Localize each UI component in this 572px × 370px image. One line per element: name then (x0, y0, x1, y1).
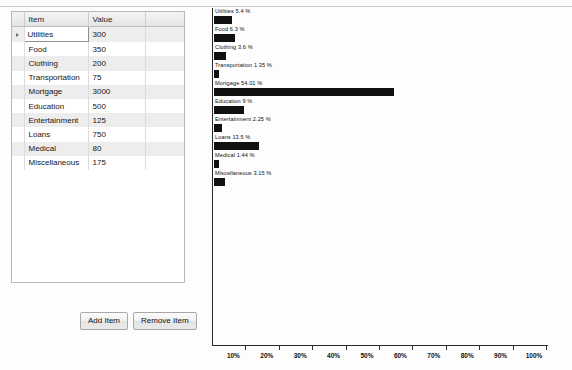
cell-value[interactable]: 125 (88, 113, 145, 127)
table-row[interactable]: Utilities300 (12, 27, 184, 42)
x-axis-tick-mark (412, 346, 413, 350)
x-axis-tick-mark (346, 346, 347, 350)
column-header-value[interactable]: Value (88, 12, 145, 27)
x-axis-tick-mark (379, 346, 380, 350)
cell-value[interactable]: 175 (88, 156, 145, 170)
remove-item-button[interactable]: Remove Item (133, 312, 197, 330)
cell-item[interactable]: Clothing (24, 56, 88, 70)
chart-bar-group: Education 9 % (214, 98, 548, 116)
chart-bar-label: Clothing 3.6 % (215, 44, 253, 51)
row-selector-cell[interactable] (12, 85, 24, 99)
row-selector-cell[interactable] (12, 27, 24, 42)
x-axis-tick-mark (312, 346, 313, 350)
chart-bar-label: Utilities 5.4 % (215, 8, 250, 15)
cell-value[interactable]: 80 (88, 142, 145, 156)
cell-value[interactable]: 750 (88, 127, 145, 141)
table-row[interactable]: Transportation75 (12, 71, 184, 85)
chart-bar (214, 34, 235, 42)
chart-bar-group: Mortgage 54.01 % (214, 80, 548, 98)
chart-bar (214, 88, 394, 96)
table-row[interactable]: Miscellaneous175 (12, 156, 184, 170)
add-item-button[interactable]: Add Item (80, 312, 128, 330)
table-row[interactable]: Mortgage3000 (12, 85, 184, 99)
expense-distribution-chart: Utilities 5.4 %Food 6.3 %Clothing 3.6 %T… (205, 5, 565, 365)
cell-value[interactable]: 3000 (88, 85, 145, 99)
chart-bar (214, 178, 225, 186)
column-header-filler[interactable] (145, 12, 184, 27)
cell-filler (145, 71, 184, 85)
cell-item[interactable]: Food (24, 42, 88, 57)
x-axis-tick-mark (279, 346, 280, 350)
x-axis-tick-label: 90% (494, 352, 507, 359)
x-axis-tick-mark (479, 346, 480, 350)
item-value-grid-panel[interactable]: Item Value Utilities300Food350Clothing20… (11, 11, 185, 283)
row-selector-cell[interactable] (12, 127, 24, 141)
x-axis-tick-label: 40% (327, 352, 340, 359)
table-row[interactable]: Entertainment125 (12, 113, 184, 127)
row-selector-cell[interactable] (12, 142, 24, 156)
chart-bar (214, 52, 226, 60)
cell-item[interactable]: Utilities (24, 27, 88, 42)
chart-bar-label: Loans 13.5 % (215, 134, 250, 141)
table-row[interactable]: Food350 (12, 42, 184, 57)
table-row[interactable]: Loans750 (12, 127, 184, 141)
chart-bar (214, 142, 259, 150)
column-header-selector[interactable] (12, 12, 24, 27)
column-header-item[interactable]: Item (24, 12, 88, 27)
cell-item[interactable]: Medical (24, 142, 88, 156)
x-axis-tick-label: 30% (294, 352, 307, 359)
chart-bar-label: Food 6.3 % (215, 26, 245, 33)
chart-bar-group: Transportation 1.35 % (214, 62, 548, 80)
table-row[interactable]: Education500 (12, 99, 184, 113)
x-axis-tick-label: 10% (227, 352, 240, 359)
row-selector-cell[interactable] (12, 56, 24, 70)
cell-item[interactable]: Mortgage (24, 85, 88, 99)
table-header-row: Item Value (12, 12, 184, 27)
row-selector-cell[interactable] (12, 99, 24, 113)
chart-bar-label: Transportation 1.35 % (215, 62, 272, 69)
cell-item[interactable]: Miscellaneous (24, 156, 88, 170)
row-selector-cell[interactable] (12, 42, 24, 57)
chart-bar-group: Entertainment 2.25 % (214, 116, 548, 134)
cell-filler (145, 42, 184, 57)
cell-value[interactable]: 75 (88, 71, 145, 85)
row-selector-cell[interactable] (12, 113, 24, 127)
cell-value[interactable]: 500 (88, 99, 145, 113)
cell-value[interactable]: 200 (88, 56, 145, 70)
x-axis-tick-mark (546, 346, 547, 350)
row-selector-arrow-icon (16, 33, 19, 37)
x-axis-tick-mark (446, 346, 447, 350)
cell-item[interactable]: Loans (24, 127, 88, 141)
chart-x-axis: 10%20%30%40%50%60%70%80%90%100% (212, 346, 548, 366)
cell-filler (145, 156, 184, 170)
chart-bar (214, 70, 219, 78)
row-selector-cell[interactable] (12, 71, 24, 85)
x-axis-tick-mark (245, 346, 246, 350)
table-row[interactable]: Medical80 (12, 142, 184, 156)
chart-bar-label: Entertainment 2.25 % (215, 116, 271, 123)
cell-filler (145, 85, 184, 99)
table-row[interactable]: Clothing200 (12, 56, 184, 70)
cell-filler (145, 142, 184, 156)
row-selector-cell[interactable] (12, 156, 24, 170)
item-value-table[interactable]: Item Value Utilities300Food350Clothing20… (12, 12, 184, 170)
cell-item[interactable]: Education (24, 99, 88, 113)
chart-bar-group: Utilities 5.4 % (214, 8, 548, 26)
cell-item[interactable]: Entertainment (24, 113, 88, 127)
x-axis-tick-label: 60% (394, 352, 407, 359)
x-axis-tick-label: 80% (461, 352, 474, 359)
cell-filler (145, 113, 184, 127)
chart-bar-label: Education 9 % (215, 98, 252, 105)
x-axis-tick-label: 50% (360, 352, 373, 359)
cell-item[interactable]: Transportation (24, 71, 88, 85)
cell-value[interactable]: 350 (88, 42, 145, 57)
cell-value[interactable]: 300 (88, 27, 145, 42)
chart-bar (214, 124, 222, 132)
x-axis-tick-label: 70% (427, 352, 440, 359)
cell-filler (145, 127, 184, 141)
chart-bar-group: Medical 1.44 % (214, 152, 548, 170)
cell-filler (145, 99, 184, 113)
cell-filler (145, 27, 184, 42)
chart-bar-group: Miscellaneous 3.15 % (214, 170, 548, 188)
chart-bar-group: Clothing 3.6 % (214, 44, 548, 62)
